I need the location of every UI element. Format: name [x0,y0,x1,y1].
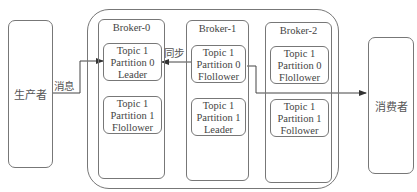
producer-node: 生产者 [8,20,53,168]
sync-label: 同步 [164,45,184,60]
message-label: 消息 [54,78,74,93]
partition-box: Topic 1 Partition 1 Leader [191,98,246,136]
broker-1: Broker-1 Topic 1 Partition 0 Flollower T… [186,20,249,181]
partition-box: Topic 1 Partition 0 Leader [103,43,162,81]
role-label: Flollower [192,71,245,83]
topic-label: Topic 1 [104,45,161,57]
topic-label: Topic 1 [271,48,328,60]
partition-label: Partition 1 [271,113,328,125]
role-label: Leader [104,69,161,81]
role-label: Leader [192,124,245,136]
partition-label: Partition 0 [271,60,328,72]
topic-label: Topic 1 [271,101,328,113]
role-label: Follower [271,125,328,137]
broker-0: Broker-0 Topic 1 Partition 0 Leader Topi… [98,19,165,179]
consumer-node: 消费者 [368,37,414,174]
partition-box: Topic 1 Partition 0 Flollower [191,45,246,83]
partition-label: Partition 0 [104,57,161,69]
partition-label: Partition 1 [192,112,245,124]
partition-label: Partition 1 [104,110,161,122]
partition-box: Topic 1 Partition 1 Follower [270,99,329,137]
role-label: Flollower [271,72,328,84]
consumer-label: 消费者 [375,98,408,114]
broker-title: Broker-0 [99,22,164,33]
topic-label: Topic 1 [192,100,245,112]
partition-box: Topic 1 Partition 1 Flollower [103,96,162,134]
broker-title: Broker-1 [187,23,248,34]
topic-label: Topic 1 [104,98,161,110]
producer-label: 生产者 [14,86,47,102]
broker-2: Broker-2 Topic 1 Partition 0 Flollower T… [265,22,332,183]
role-label: Flollower [104,122,161,134]
broker-title: Broker-2 [266,25,331,36]
partition-box: Topic 1 Partition 0 Flollower [270,46,329,84]
partition-label: Partition 0 [192,59,245,71]
topic-label: Topic 1 [192,47,245,59]
